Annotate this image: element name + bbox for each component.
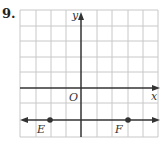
- point-f: [125, 117, 131, 123]
- x-axis-label: x: [151, 90, 158, 103]
- point-e-label: E: [36, 123, 45, 136]
- origin-label: O: [69, 91, 78, 104]
- point-f-label: F: [114, 123, 123, 136]
- line-left-arrow-icon: [20, 117, 28, 123]
- grid: [20, 10, 158, 137]
- point-e: [47, 117, 53, 123]
- coordinate-graph: y x O E F: [0, 0, 164, 142]
- y-axis-arrow-icon: [78, 12, 84, 20]
- line-right-arrow-icon: [152, 117, 160, 123]
- y-axis-label: y: [71, 9, 79, 22]
